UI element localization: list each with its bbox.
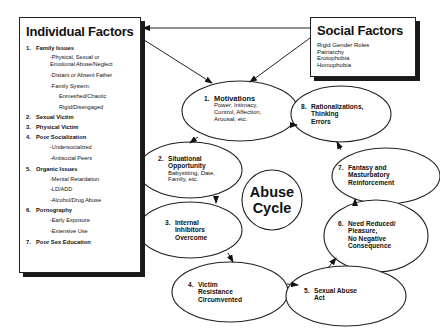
node-number: 3.	[165, 219, 175, 226]
item-label: Poor Sex Education	[36, 239, 91, 245]
list-subitem: -Early Exposure	[26, 215, 140, 226]
item-label: Physical Victim	[36, 124, 78, 130]
node-title: Overcome	[165, 234, 207, 241]
node-title: Errors	[301, 118, 363, 125]
node-title: Thinking	[301, 110, 363, 117]
node-detail: Power, Intimacy,	[204, 102, 261, 109]
node-title: Reinforcement	[338, 179, 394, 186]
node-title: Act	[304, 294, 357, 301]
node-title: Circumvented	[188, 296, 242, 303]
node-victim-resistance: 4.Victim Resistance Circumvented	[188, 281, 242, 303]
subitem-text: -Physical, Sexual or	[50, 54, 99, 60]
node-number: 1.	[204, 95, 214, 102]
social-factors-title: Social Factors	[317, 23, 415, 38]
item-number: 4.	[26, 132, 36, 142]
node-number: 4.	[188, 281, 198, 288]
list-subitem: -Family System:	[26, 81, 140, 92]
node-title: Inhibitors	[165, 226, 207, 233]
node-title: Sexual Abuse	[314, 287, 357, 294]
node-title: Internal	[175, 219, 199, 226]
node-motivations: 1.Motivations Power, Intimacy, Control, …	[204, 95, 261, 122]
node-number: 2.	[158, 155, 168, 162]
list-item: 6.Pornography	[26, 205, 140, 215]
node-need-reduced: 6.Need Reduced/ Pleasure, No Negative Co…	[338, 220, 396, 250]
list-subitem: Rigid/Disengaged	[26, 102, 140, 113]
item-label: Family Issues	[36, 45, 74, 51]
item-label: Organic Issues	[36, 166, 78, 172]
item-number: 3.	[26, 122, 36, 132]
list-item: 3.Physical Victim	[26, 122, 140, 132]
arrow-individual-to-motivations	[141, 38, 212, 83]
node-fantasy-reinforcement: 7.Fantasy and Masturbatory Reinforcement	[338, 164, 394, 186]
node-title: Fantasy and	[348, 164, 386, 171]
center-line-2: Cycle	[242, 200, 302, 216]
subitem-text: Emotional Abuse/Neglect	[50, 61, 113, 67]
abuse-cycle-label: Abuse Cycle	[242, 184, 302, 216]
node-internal-inhibitors: 3.Internal Inhibitors Overcome	[165, 219, 207, 241]
list-subitem: Enmeshed/Chaotic	[26, 91, 140, 102]
item-number: 2.	[26, 112, 36, 122]
list-item: 4.Poor Socialization	[26, 132, 140, 142]
node-number: 8.	[301, 103, 311, 110]
individual-factors-title: Individual Factors	[26, 24, 140, 39]
item-number: 1.	[26, 43, 36, 53]
arrow-7-to-8	[337, 142, 341, 150]
list-item: 2.Sexual Victim	[26, 112, 140, 122]
list-subitem: -Mental Retardation	[26, 174, 140, 185]
node-number: 6.	[338, 220, 348, 227]
node-title: Rationalizations,	[311, 103, 363, 110]
node-title: Victim	[198, 281, 218, 288]
list-subitem: -Extensive Use	[26, 226, 140, 237]
node-detail: Arousal, etc.	[204, 116, 261, 123]
item-label: Poor Socialization	[36, 134, 86, 140]
node-detail: Babysitting, Date,	[158, 170, 215, 177]
center-line-1: Abuse	[242, 184, 302, 200]
item-number: 6.	[26, 205, 36, 215]
node-title: No Negative	[338, 235, 396, 242]
item-number: 7.	[26, 237, 36, 247]
node-title: Pleasure,	[338, 227, 396, 234]
arrow-social-to-motivations	[250, 38, 310, 82]
node-title: Consequence	[338, 242, 396, 249]
individual-factors-box: Individual Factors 1.Family Issues -Phys…	[19, 17, 141, 273]
list-item: 1.Family Issues	[26, 43, 140, 53]
list-subitem: -Alcohol/Drug Abuse	[26, 195, 140, 206]
node-number: 7.	[338, 164, 348, 171]
node-detail: Family, etc.	[158, 176, 215, 183]
list-subitem: -Undersocialized	[26, 142, 140, 153]
list-subitem: -Physical, Sexual orEmotional Abuse/Negl…	[26, 53, 140, 70]
social-factors-box: Social Factors Rigid Gender Roles Patria…	[310, 17, 416, 77]
list-item: 5.Organic Issues	[26, 164, 140, 174]
list-item: Homophobia	[317, 62, 415, 69]
item-number: 5.	[26, 164, 36, 174]
node-rationalizations: 8.Rationalizations, Thinking Errors	[301, 103, 363, 125]
node-number: 5.	[304, 287, 314, 294]
list-subitem: -Antisocial Peers	[26, 153, 140, 164]
node-title: Situational	[168, 155, 202, 162]
item-label: Pornography	[36, 207, 72, 213]
individual-factors-list: 1.Family Issues -Physical, Sexual orEmot…	[26, 43, 140, 247]
node-title: Masturbatory	[338, 171, 394, 178]
node-title: Resistance	[188, 288, 242, 295]
node-sexual-abuse-act: 5.Sexual Abuse Act	[304, 287, 357, 302]
item-label: Sexual Victim	[36, 114, 74, 120]
node-title: Need Reduced/	[348, 220, 396, 227]
node-situational-opportunity: 2.Situational Opportunity Babysitting, D…	[158, 155, 215, 183]
list-item: 7.Poor Sex Education	[26, 237, 140, 247]
list-subitem: -Distant or Absent Father	[26, 70, 140, 81]
social-factors-list: Rigid Gender Roles Patriarchy Erotophobi…	[317, 42, 415, 68]
list-subitem: -LD/ADD	[26, 184, 140, 195]
arrow-3-to-4	[228, 253, 233, 262]
node-detail: Control, Affection,	[204, 109, 261, 116]
node-title: Opportunity	[158, 162, 215, 169]
